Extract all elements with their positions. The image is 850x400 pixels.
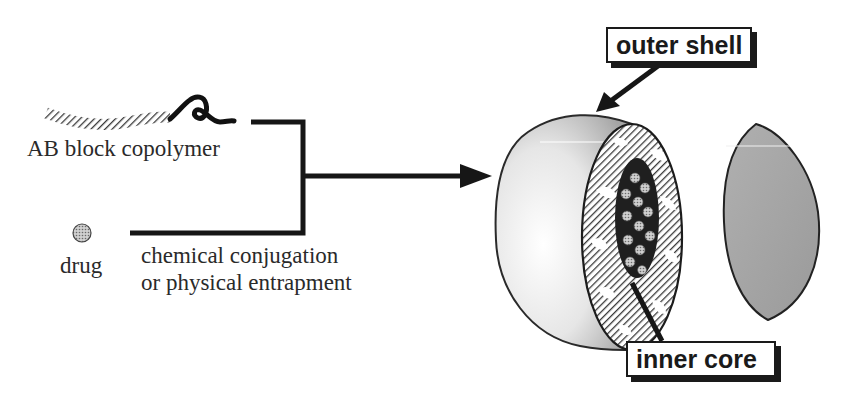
drug-icon bbox=[73, 224, 91, 242]
process-label-line2: or physical entrapment bbox=[141, 270, 352, 296]
inner-core-callout: inner core bbox=[626, 341, 776, 377]
process-label-line1: chemical conjugation bbox=[141, 243, 338, 269]
copolymer-label: AB block copolymer bbox=[27, 136, 220, 162]
micelle-core bbox=[615, 158, 659, 278]
copolymer-icon bbox=[46, 97, 234, 124]
removed-cap bbox=[724, 124, 819, 320]
arrow-head-icon bbox=[460, 164, 492, 188]
outer-shell-callout: outer shell bbox=[606, 27, 752, 63]
drug-label: drug bbox=[60, 253, 102, 279]
